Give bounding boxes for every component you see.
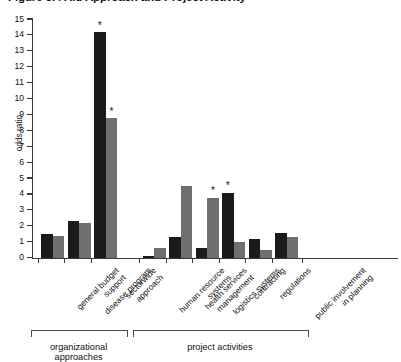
bar-series-gray-7 (260, 250, 272, 258)
bar-series-dark-7 (249, 239, 261, 258)
significance-star-6-0: * (223, 181, 233, 191)
bar-series-dark-6 (222, 193, 234, 258)
x-tick-3 (139, 259, 140, 264)
group-label-0: organizational approaches (31, 342, 126, 362)
x-tick-7 (245, 259, 246, 264)
group-label-1: project activities (133, 342, 308, 352)
x-tick-4 (166, 259, 167, 264)
x-tick-8 (272, 259, 273, 264)
x-label-8: public involvementin planning (313, 266, 375, 328)
x-tick-9 (302, 259, 303, 264)
bar-series-gray-3 (154, 248, 166, 258)
x-tick-6 (219, 259, 220, 264)
bar-series-dark-2 (94, 32, 106, 258)
x-tick-2 (91, 259, 92, 264)
x-tick-0 (38, 259, 39, 264)
bar-series-dark-0 (41, 234, 53, 258)
bar-series-gray-5 (207, 198, 219, 258)
bar-series-dark-3 (143, 256, 155, 258)
bracket-0 (31, 330, 128, 337)
x-tick-5 (192, 259, 193, 264)
bar-series-gray-2 (106, 118, 118, 258)
bar-series-gray-8 (287, 237, 299, 258)
x-label-2: sectorwideapproach (123, 266, 165, 308)
x-tick-1 (64, 259, 65, 264)
significance-star-2-1: * (106, 107, 116, 117)
bar-series-container (0, 0, 401, 258)
significance-star-5-1: * (208, 186, 218, 196)
bracket-1 (133, 330, 310, 337)
bar-series-gray-1 (79, 223, 91, 258)
bar-series-dark-8 (275, 233, 287, 258)
bar-series-gray-6 (234, 242, 246, 258)
significance-star-2-0: * (95, 21, 105, 31)
bar-series-dark-5 (196, 248, 208, 258)
bar-series-gray-4 (181, 186, 193, 258)
bar-series-dark-1 (68, 221, 80, 258)
bar-series-dark-4 (169, 237, 181, 258)
bar-series-gray-0 (53, 236, 65, 258)
